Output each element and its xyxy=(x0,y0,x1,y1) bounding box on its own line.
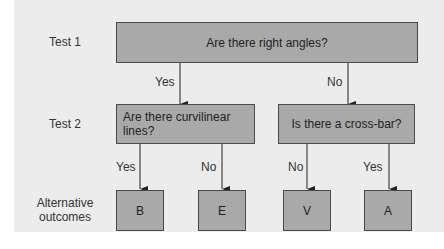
edge-label-right-yes: Yes xyxy=(363,160,383,174)
outcome-a: A xyxy=(364,190,412,231)
outcome-b: B xyxy=(116,190,164,231)
outcome-v-label: V xyxy=(303,204,311,218)
outcome-v: V xyxy=(283,190,331,231)
outcome-e: E xyxy=(198,190,246,231)
node-right-angles: Are there right angles? xyxy=(116,22,418,63)
node-curvilinear-lines-label: Are there curvilinear lines? xyxy=(123,110,254,138)
outcome-a-label: A xyxy=(384,204,392,218)
outcome-b-label: B xyxy=(136,204,144,218)
edge-label-right-no: No xyxy=(288,160,303,174)
edge-label-left-no: No xyxy=(201,160,216,174)
outcome-e-label: E xyxy=(218,204,226,218)
edge-label-root-yes: Yes xyxy=(155,75,175,89)
edge-label-root-no: No xyxy=(327,75,342,89)
edge-label-left-yes: Yes xyxy=(116,160,136,174)
node-cross-bar: Is there a cross-bar? xyxy=(278,104,415,144)
node-cross-bar-label: Is there a cross-bar? xyxy=(291,117,401,131)
node-right-angles-label: Are there right angles? xyxy=(206,36,327,50)
node-curvilinear-lines: Are there curvilinear lines? xyxy=(116,104,255,144)
